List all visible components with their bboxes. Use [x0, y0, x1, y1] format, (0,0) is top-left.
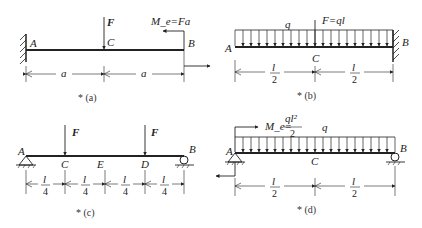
- point-label-D: D: [140, 158, 149, 170]
- point-label-A: A: [29, 37, 37, 49]
- force-label: F: [150, 126, 159, 138]
- figure-caption: * (b): [297, 90, 316, 102]
- point-label-B: B: [400, 142, 407, 154]
- point-label-A: A: [17, 145, 25, 157]
- dim-numerator: l: [352, 61, 355, 73]
- dim-denominator: 2: [272, 188, 277, 199]
- dim-denominator: 4: [123, 186, 128, 197]
- dim-numerator: l: [272, 61, 275, 73]
- roller-support-icon: [386, 153, 405, 165]
- point-label-C: C: [107, 36, 115, 48]
- dim-numerator: l: [352, 175, 355, 187]
- moment-numerator: ql²: [285, 112, 298, 124]
- dim-numerator: l: [43, 173, 46, 185]
- beam-diagrams: A C B F M_e=Fa a a * (a): [0, 0, 422, 228]
- fixed-support-icon: [393, 30, 399, 62]
- dim-numerator: l: [83, 173, 86, 185]
- dim-numerator: l: [272, 175, 275, 187]
- force-label: F=ql: [321, 14, 345, 26]
- dim-denominator: 4: [162, 186, 167, 197]
- force-label: F: [71, 126, 80, 138]
- force-label: F: [106, 16, 115, 28]
- distributed-load-icon: [235, 137, 395, 152]
- dimension-lines: [235, 166, 395, 196]
- figure-caption: * (c): [76, 207, 95, 219]
- point-label-C: C: [311, 155, 319, 167]
- moment-arrow-icon: [235, 127, 258, 152]
- figure-caption: * (d): [297, 204, 316, 216]
- pin-support-icon: [16, 156, 36, 168]
- roller-support-icon: [175, 156, 194, 168]
- load-label: q: [285, 18, 291, 30]
- dim-denominator: 2: [272, 74, 277, 85]
- point-label-B: B: [188, 37, 195, 49]
- axial-arrow-icon: [216, 162, 235, 176]
- figure-b: q F=ql A C B l 2 l: [224, 14, 409, 102]
- dimension-lines: [26, 66, 184, 82]
- point-label-C: C: [312, 52, 320, 64]
- moment-label: M_e=Fa: [150, 15, 191, 27]
- point-label-E: E: [96, 158, 104, 170]
- dim-numerator: l: [162, 173, 165, 185]
- figure-c: F F A C E D B: [16, 125, 196, 219]
- distributed-load-icon: [235, 30, 393, 46]
- point-label-B: B: [402, 36, 409, 48]
- dim-denominator: 2: [352, 188, 357, 199]
- dimension-lines: [26, 170, 184, 194]
- point-label-C: C: [61, 158, 69, 170]
- figure-caption: * (a): [78, 92, 97, 104]
- dim-label: a: [61, 67, 67, 79]
- dim-denominator: 4: [83, 186, 88, 197]
- fixed-support-icon: [20, 34, 26, 64]
- dim-numerator: l: [123, 173, 126, 185]
- figure-a: A C B F M_e=Fa a a * (a): [20, 15, 210, 104]
- dim-denominator: 4: [43, 186, 48, 197]
- dim-label: a: [141, 67, 147, 79]
- point-label-B: B: [189, 143, 196, 155]
- dim-denominator: 2: [352, 74, 357, 85]
- moment-arrow-icon: [163, 31, 184, 50]
- load-label: q: [322, 121, 328, 133]
- point-label-A: A: [225, 145, 233, 157]
- figure-d: M_e= ql² 2 q: [216, 112, 407, 216]
- point-label-A: A: [224, 42, 232, 54]
